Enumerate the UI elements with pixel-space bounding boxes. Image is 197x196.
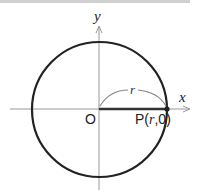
- radius-arc: [100, 90, 128, 106]
- origin-label: O: [85, 111, 96, 127]
- y-axis-label: y: [92, 8, 101, 24]
- x-axis-label: x: [178, 89, 186, 105]
- point-label-suffix: ,0): [154, 111, 170, 127]
- point-label-prefix: P(: [135, 111, 149, 127]
- point-p-label: P(r,0): [135, 111, 171, 127]
- diagram-canvas: y x r O P(r,0): [0, 0, 197, 196]
- radius-label: r: [130, 82, 136, 97]
- radius-arc-right: [138, 90, 166, 106]
